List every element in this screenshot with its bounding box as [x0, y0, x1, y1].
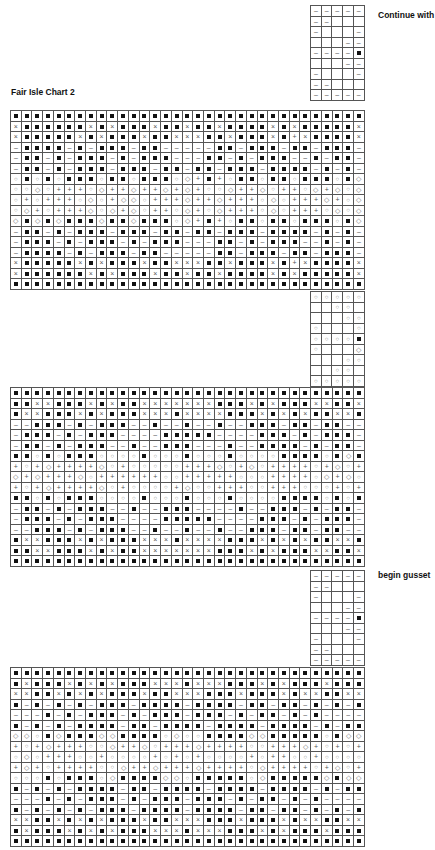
empty-cell — [311, 623, 322, 634]
filled-square-icon — [96, 247, 107, 258]
circle-icon — [203, 482, 214, 493]
filled-square-icon — [32, 419, 43, 430]
circle-icon — [311, 376, 322, 387]
filled-square-icon — [300, 163, 311, 174]
diamond-icon — [182, 216, 193, 227]
cross-icon — [75, 815, 86, 826]
cross-icon — [43, 545, 54, 556]
filled-square-icon — [32, 825, 43, 836]
diamond-icon — [193, 762, 204, 773]
filled-square-icon — [107, 524, 118, 535]
cross-icon — [343, 815, 354, 826]
filled-square-icon — [11, 279, 22, 290]
empty-cell — [332, 16, 343, 27]
circle-icon — [332, 302, 343, 313]
filled-square-icon — [64, 111, 75, 122]
filled-square-icon — [107, 430, 118, 441]
circle-icon — [203, 493, 214, 504]
filled-square-icon — [161, 710, 172, 721]
circle-icon — [343, 762, 354, 773]
cross-icon — [86, 825, 97, 836]
filled-square-icon — [225, 268, 236, 279]
filled-square-icon — [225, 556, 236, 567]
circle-icon — [225, 461, 236, 472]
filled-square-icon — [64, 216, 75, 227]
chart-row — [311, 623, 365, 634]
chart-row — [311, 79, 365, 90]
filled-square-icon — [268, 783, 279, 794]
filled-square-icon — [107, 142, 118, 153]
empty-cell — [353, 581, 364, 592]
dash-icon — [182, 142, 193, 153]
filled-square-icon — [203, 699, 214, 710]
filled-square-icon — [321, 142, 332, 153]
cross-icon — [171, 545, 182, 556]
cross-icon — [75, 258, 86, 269]
dash-icon — [11, 503, 22, 514]
dash-icon — [353, 6, 364, 17]
dash-icon — [321, 710, 332, 721]
filled-square-icon — [311, 836, 322, 847]
filled-square-icon — [236, 216, 247, 227]
dash-icon — [257, 720, 268, 731]
dash-icon — [343, 524, 354, 535]
circle-icon — [311, 482, 322, 493]
filled-square-icon — [246, 409, 257, 420]
filled-square-icon — [21, 388, 32, 399]
filled-square-icon — [128, 121, 139, 132]
filled-square-icon — [11, 451, 22, 462]
filled-square-icon — [203, 174, 214, 185]
plus-icon — [32, 482, 43, 493]
circle-icon — [128, 482, 139, 493]
dash-icon — [182, 247, 193, 258]
plus-icon — [289, 258, 300, 269]
filled-square-icon — [171, 535, 182, 546]
filled-square-icon — [43, 514, 54, 525]
plus-icon — [193, 461, 204, 472]
filled-square-icon — [289, 556, 300, 567]
circle-icon — [257, 205, 268, 216]
diamond-icon — [246, 461, 257, 472]
filled-square-icon — [75, 163, 86, 174]
plus-icon — [311, 205, 322, 216]
dash-icon — [118, 794, 129, 805]
dash-icon — [343, 48, 354, 59]
filled-square-icon — [257, 514, 268, 525]
filled-square-icon — [321, 121, 332, 132]
circle-icon — [43, 184, 54, 195]
dash-icon — [257, 163, 268, 174]
filled-square-icon — [332, 804, 343, 815]
filled-square-icon — [161, 174, 172, 185]
filled-square-icon — [32, 247, 43, 258]
filled-square-icon — [86, 794, 97, 805]
diamond-icon — [354, 184, 365, 195]
filled-square-icon — [203, 153, 214, 164]
filled-square-icon — [182, 419, 193, 430]
dash-icon — [246, 710, 257, 721]
dash-icon — [332, 571, 343, 582]
filled-square-icon — [332, 440, 343, 451]
filled-square-icon — [236, 268, 247, 279]
dash-icon — [21, 710, 32, 721]
plus-icon — [203, 195, 214, 206]
diamond-icon — [96, 216, 107, 227]
chart-row — [11, 184, 365, 195]
filled-square-icon — [118, 268, 129, 279]
circle-icon — [353, 355, 364, 366]
dash-icon — [354, 226, 365, 237]
filled-square-icon — [203, 388, 214, 399]
cross-icon — [343, 689, 354, 700]
filled-square-icon — [268, 668, 279, 679]
circle-icon — [43, 205, 54, 216]
filled-square-icon — [354, 409, 365, 420]
filled-square-icon — [86, 258, 97, 269]
plus-icon — [225, 482, 236, 493]
chart-row — [11, 836, 365, 847]
filled-square-icon — [332, 132, 343, 143]
dash-icon — [193, 440, 204, 451]
cross-icon — [161, 545, 172, 556]
dash-icon — [193, 524, 204, 535]
cross-icon — [182, 398, 193, 409]
dash-icon — [354, 153, 365, 164]
circle-icon — [21, 482, 32, 493]
